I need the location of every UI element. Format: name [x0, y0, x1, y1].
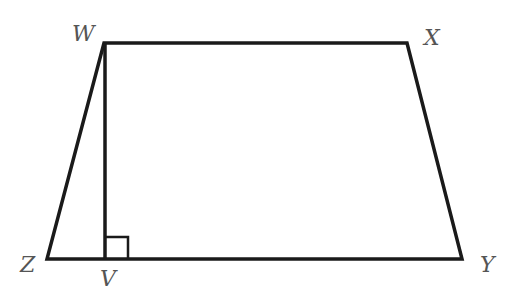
label-z: Z [19, 252, 36, 277]
label-w: W [72, 21, 97, 46]
right-angle-marker [105, 237, 128, 259]
label-x: X [422, 25, 441, 50]
label-v: V [100, 266, 118, 291]
trapezoid-diagram: W X Y Z V [0, 0, 518, 298]
trapezoid-wxyz [47, 43, 462, 259]
label-y: Y [480, 252, 497, 277]
